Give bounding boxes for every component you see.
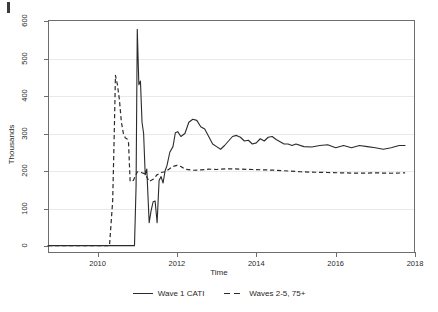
x-tick-label: 2014	[248, 259, 265, 268]
legend-item[interactable]: Waves 2-5, 75+	[224, 289, 305, 298]
y-tick-label: 200	[20, 155, 29, 187]
x-tick-mark	[256, 252, 257, 257]
y-tick-label: 0	[20, 230, 29, 262]
legend-label: Waves 2-5, 75+	[249, 289, 305, 298]
chart-legend: Wave 1 CATIWaves 2-5, 75+	[0, 289, 438, 298]
legend-label: Wave 1 CATI	[158, 289, 205, 298]
chart-figure: 0100200300400500600 20102012201420162018…	[0, 0, 438, 312]
x-tick-mark	[415, 252, 416, 257]
data-series-layer	[48, 21, 415, 252]
y-tick-label: 100	[20, 192, 29, 224]
y-tick-label: 400	[20, 80, 29, 112]
y-tick-label: 300	[20, 117, 29, 149]
x-tick-label: 2016	[327, 259, 344, 268]
x-tick-mark	[336, 252, 337, 257]
x-tick-label: 2012	[169, 259, 186, 268]
y-axis-title: Thousands	[7, 105, 16, 185]
legend-swatch-solid-icon	[133, 290, 153, 298]
scan-artifact-mark	[7, 2, 10, 13]
series-line-solid	[48, 29, 405, 245]
y-tick-label: 500	[20, 42, 29, 74]
legend-item[interactable]: Wave 1 CATI	[133, 289, 205, 298]
x-tick-mark	[177, 252, 178, 257]
legend-swatch-dashed-icon	[224, 290, 244, 298]
x-tick-label: 2010	[89, 259, 106, 268]
x-tick-label: 2018	[407, 259, 424, 268]
series-line-dashed	[48, 75, 405, 245]
x-axis-line	[48, 252, 415, 253]
y-tick-label: 600	[20, 5, 29, 37]
x-tick-mark	[98, 252, 99, 257]
x-axis-title: Time	[0, 268, 438, 277]
